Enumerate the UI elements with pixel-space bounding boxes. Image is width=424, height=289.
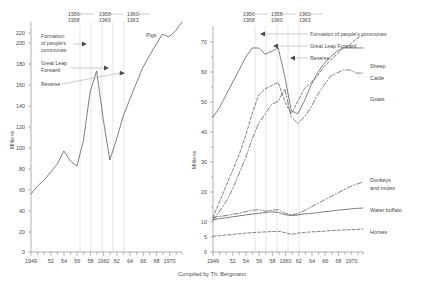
left-ytick-60: 60: [19, 187, 25, 193]
right-series-label-donkeys: Donkeys: [370, 177, 391, 183]
left-ytick-200: 200: [16, 40, 25, 46]
left-annotations: Formation of people's communes Great Lea…: [41, 33, 125, 87]
ann-glf-l2: Forward: [41, 67, 60, 73]
left-ytick-0: 0: [22, 249, 25, 255]
right-xtick-52: 52: [230, 258, 236, 264]
left-xtick-58: 58: [87, 258, 93, 264]
left-ytick-180: 180: [16, 61, 25, 67]
ann-reverse: Reverse: [41, 81, 60, 87]
period-label-2b: 1960: [99, 17, 111, 23]
right-ytick-30: 30: [201, 159, 207, 165]
right-series-label-horses: Horses: [370, 229, 387, 235]
figure-caption: Compiled by Th. Bergmann: [178, 271, 246, 277]
rann-glf: Great Leap Forward: [310, 43, 357, 49]
right-xtick-62: 62: [296, 258, 302, 264]
left-series-label-pigs: Pigs: [146, 32, 157, 38]
right-x-ticks: [213, 252, 363, 256]
left-chart-pigs: 1956- 1958 1958- 1960 1960- 1963 0 20 40…: [9, 11, 182, 264]
left-xtick-52: 52: [48, 258, 54, 264]
right-ytick-70: 70: [201, 39, 207, 45]
right-ytick-20: 20: [201, 189, 207, 195]
right-series-label-goats: Goats: [370, 96, 385, 102]
figure-livestock-china: 1956- 1958 1958- 1960 1960- 1963 0 20 40…: [0, 0, 424, 289]
right-chart-livestock: 1956- 1958 1958- 1960 1960- 1963 0 5 10 …: [191, 11, 402, 264]
left-xtick-64: 64: [127, 258, 133, 264]
left-xtick-66: 66: [140, 258, 146, 264]
right-ytick-5: 5: [204, 234, 207, 240]
right-y-axis-title: Millions: [191, 150, 197, 169]
right-xtick-58: 58: [269, 258, 275, 264]
ann-communes-l1: Formation: [41, 33, 64, 39]
right-xtick-54: 54: [243, 258, 249, 264]
right-ytick-10: 10: [201, 219, 207, 225]
right-ytick-60: 60: [201, 69, 207, 75]
right-xtick-1960: 1960: [280, 258, 292, 264]
left-xtick-1960: 1960: [98, 258, 110, 264]
right-series-label-cattle: Cattle: [370, 75, 384, 81]
left-x-tick-labels: 1949 52 54 56 58 1960 62 64 66 68 1970: [25, 258, 176, 264]
right-ytick-40: 40: [201, 129, 207, 135]
left-xtick-56: 56: [74, 258, 80, 264]
left-ytick-20: 20: [19, 229, 25, 235]
arrowhead-communes: [82, 42, 87, 47]
right-period-bands: [255, 26, 299, 252]
left-xtick-1970: 1970: [164, 258, 176, 264]
rperiod-label-2b: 1960: [271, 17, 283, 23]
rann-communes: Formation of people's communes: [310, 31, 387, 37]
rarrowhead-glf: [273, 44, 278, 49]
left-y-ticks: 0 20 40 60 80 100 120 140 160 180 200 22…: [16, 30, 31, 255]
ann-communes-l2: of people's: [41, 40, 66, 46]
rperiod-label-3b: 1963: [299, 17, 311, 23]
right-period-labels: 1956- 1958 1958- 1960 1960- 1963: [243, 11, 323, 23]
right-ytick-50: 50: [201, 99, 207, 105]
arrowhead-glf: [104, 66, 109, 71]
left-ytick-120: 120: [16, 124, 25, 130]
rann-reverse: Reverse: [310, 55, 329, 61]
rarrowhead-reverse: [290, 56, 295, 61]
left-xtick-62: 62: [114, 258, 120, 264]
left-xtick-54: 54: [61, 258, 67, 264]
right-y-ticks: 0 5 10 20 30 40 50 60 70: [201, 39, 213, 255]
left-y-axis-title: Millions: [9, 130, 15, 149]
ann-communes-l3: communes: [41, 47, 67, 53]
right-xtick-64: 64: [309, 258, 315, 264]
right-xtick-1949: 1949: [207, 258, 219, 264]
left-ytick-100: 100: [16, 145, 25, 151]
rarrowhead-communes: [260, 32, 265, 37]
charts-svg: 1956- 1958 1958- 1960 1960- 1963 0 20 40…: [0, 0, 424, 289]
period-label-1b: 1958: [68, 17, 80, 23]
left-ytick-160: 160: [16, 82, 25, 88]
rperiod-label-1b: 1958: [243, 17, 255, 23]
left-ytick-140: 140: [16, 103, 25, 109]
left-xtick-1949: 1949: [25, 258, 37, 264]
right-xtick-68: 68: [335, 258, 341, 264]
left-ytick-40: 40: [19, 208, 25, 214]
right-annotations: Formation of people's communes Great Lea…: [260, 31, 387, 61]
right-ytick-0: 0: [204, 249, 207, 255]
right-x-tick-labels: 1949 52 54 56 58 1960 62 64 66 68 1970: [207, 258, 358, 264]
left-xtick-68: 68: [153, 258, 159, 264]
left-ytick-80: 80: [19, 166, 25, 172]
right-series-label-sheep: Sheep: [370, 63, 386, 69]
right-xtick-56: 56: [256, 258, 262, 264]
right-xtick-66: 66: [322, 258, 328, 264]
left-x-ticks: [31, 252, 182, 256]
left-ytick-220: 220: [16, 30, 25, 36]
right-series-label-waterbuffalo: Water buffalo: [370, 207, 402, 213]
right-series-label-donkeys-2: and mules: [370, 185, 395, 191]
ann-glf-l1: Great Leap: [41, 60, 67, 66]
period-label-3b: 1963: [127, 17, 139, 23]
right-xtick-1970: 1970: [346, 258, 358, 264]
left-period-labels: 1956- 1958 1958- 1960 1960- 1963: [68, 11, 150, 23]
